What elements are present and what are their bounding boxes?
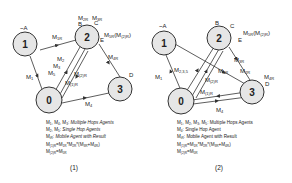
label-m5r: M5R(M(2)R) <box>243 30 270 37</box>
svg-text:1: 1 <box>161 38 167 49</box>
legend-1-line-5: M(2)R=M5R <box>46 149 114 156</box>
tag-E: E <box>238 37 242 43</box>
label-m2r: M2R <box>78 15 88 22</box>
label-m3r: M3R <box>92 15 102 22</box>
svg-text:2: 2 <box>216 33 222 44</box>
legend-1-line-1: M1, M4, M3: Multiple Hops Agents <box>46 120 114 127</box>
diagram-1: 1 2 0 3 ~A B C E D M2R M3R M5R(M(2)R) M1… <box>13 15 134 113</box>
tag-D: D <box>129 72 134 78</box>
tag-B: B <box>215 20 219 26</box>
label-m5: M5 <box>48 70 56 77</box>
node-0: 0 <box>168 88 194 114</box>
label-m1: M1 <box>155 74 163 81</box>
label-m2: M2 <box>57 56 65 63</box>
edge-0-to-3 <box>193 97 247 104</box>
tag-A: ~A <box>159 23 167 29</box>
label-m1: M1 <box>26 74 34 81</box>
legend-1-line-2: M2, M5: Single Hop Agents <box>46 127 114 134</box>
caption-2: (2) <box>215 164 223 171</box>
node-1: 1 <box>152 31 176 55</box>
edge-1-to-2 <box>40 40 76 50</box>
label-m1r: M1R <box>52 34 62 41</box>
label-m2r: M2R <box>240 68 250 75</box>
svg-text:3: 3 <box>117 84 123 95</box>
node-2: 2 <box>207 26 231 50</box>
diagram-2: 1 2 0 3 ~A B C E D M5R(M(2)R) M1 M2,3,5 … <box>152 20 274 114</box>
tag-B: B <box>78 21 82 27</box>
label-m5r: M5R(M(2)R) <box>104 32 131 39</box>
legend-1-line-3: MiR: Mobile Agent with Result <box>46 134 114 141</box>
svg-text:3: 3 <box>249 87 255 98</box>
legend-1: M1, M4, M3: Multiple Hops Agents M2, M5:… <box>46 120 114 156</box>
legend-2-line-4: M(1)R=M1R*M2R*(M3R+M4R) <box>177 142 253 149</box>
label-m1r: M1R <box>218 68 228 75</box>
legend-2-line-3: MiR: Mobile Agent with Result <box>177 134 253 141</box>
svg-text:1: 1 <box>22 39 28 50</box>
node-3: 3 <box>108 77 132 101</box>
legend-2-line-1: M1, M2, M3, M5: Multiple Hops Agents <box>177 120 253 127</box>
label-m3: M3 <box>53 63 61 70</box>
svg-text:0: 0 <box>46 95 52 106</box>
edge-0-to-2-a <box>186 47 214 92</box>
label-m4: M4 <box>216 107 224 114</box>
edge-1-to-0 <box>30 56 43 92</box>
edge-1-to-0 <box>166 55 182 93</box>
label-m4r: M4R <box>264 74 274 81</box>
label-m2-r: M(2)R <box>205 77 218 84</box>
legend-2-line-2: M4: Single Hop Agent <box>177 127 253 134</box>
node-2: 2 <box>75 25 99 49</box>
legend-1-line-4: M(1)R=M1R*M2R*(M3R+M4R) <box>46 142 114 149</box>
svg-text:2: 2 <box>84 32 90 43</box>
label-m4: M4 <box>85 101 93 108</box>
label-m3r: M3R <box>234 57 244 64</box>
tag-D: D <box>265 81 270 87</box>
node-1: 1 <box>13 32 37 56</box>
label-m4r: M4R <box>108 54 118 61</box>
tag-C: C <box>230 23 235 29</box>
legend-2-line-5: M(2)R=M5R <box>177 149 253 156</box>
node-0: 0 <box>36 87 62 113</box>
label-m1-r: M(1)R <box>65 80 78 87</box>
tag-A: ~A <box>20 25 28 31</box>
label-m1-r: M(1)R <box>200 89 213 96</box>
label-m2-r: M(2)R <box>74 71 87 78</box>
legend-2: M1, M2, M3, M5: Multiple Hops Agents M4:… <box>177 120 253 156</box>
svg-text:0: 0 <box>178 96 184 107</box>
caption-1: (1) <box>70 164 78 171</box>
label-m235: M2,3,5 <box>174 67 189 74</box>
node-3: 3 <box>240 80 264 104</box>
